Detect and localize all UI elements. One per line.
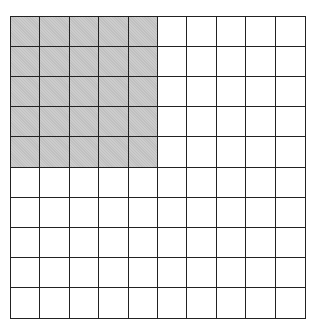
grid-cell — [217, 17, 246, 47]
grid-cell — [11, 228, 40, 258]
grid-cell — [276, 17, 305, 47]
grid-cell — [158, 107, 187, 137]
grid-cell — [217, 77, 246, 107]
grid-cell — [158, 17, 187, 47]
grid-cell — [246, 77, 275, 107]
grid-cell-shaded — [40, 47, 69, 77]
grid-cell-shaded — [70, 107, 99, 137]
grid-cell-shaded — [129, 17, 158, 47]
grid-cell-shaded — [40, 107, 69, 137]
grid-cell — [187, 17, 216, 47]
grid-cell — [276, 47, 305, 77]
grid-cell-shaded — [99, 47, 128, 77]
grid-cell — [99, 198, 128, 228]
grid-cell — [99, 288, 128, 318]
grid-cell — [246, 107, 275, 137]
grid-cell — [187, 258, 216, 288]
grid-cell — [40, 198, 69, 228]
grid-cell-shaded — [11, 17, 40, 47]
grid-cell-shaded — [70, 137, 99, 167]
grid-cell — [276, 137, 305, 167]
grid-cell — [187, 288, 216, 318]
grid-cell-shaded — [70, 17, 99, 47]
grid-cell — [276, 258, 305, 288]
grid-cell — [276, 77, 305, 107]
grid-cell-shaded — [99, 137, 128, 167]
grid-cell-shaded — [11, 47, 40, 77]
grid-cell — [158, 137, 187, 167]
grid-cell — [70, 228, 99, 258]
grid-cell — [217, 107, 246, 137]
grid-cell — [70, 168, 99, 198]
grid-cell-shaded — [11, 107, 40, 137]
grid-cell — [129, 228, 158, 258]
grid-cell — [158, 168, 187, 198]
grid-cell — [99, 168, 128, 198]
grid-cell — [99, 258, 128, 288]
grid-cell — [187, 228, 216, 258]
grid-cell — [246, 228, 275, 258]
grid-cell — [158, 258, 187, 288]
grid-cell — [158, 288, 187, 318]
grid-cell — [246, 288, 275, 318]
grid-cell — [217, 137, 246, 167]
grid-cell-shaded — [11, 77, 40, 107]
grid-cell-shaded — [40, 137, 69, 167]
grid-cell — [129, 168, 158, 198]
grid-cell — [246, 137, 275, 167]
grid-cell — [11, 198, 40, 228]
grid-cell-shaded — [129, 107, 158, 137]
hundred-grid — [10, 16, 306, 319]
grid-cell — [40, 228, 69, 258]
grid-cell — [217, 198, 246, 228]
grid-cell — [276, 228, 305, 258]
grid-cell — [11, 288, 40, 318]
grid-cell — [276, 107, 305, 137]
grid-cell — [187, 77, 216, 107]
grid-cell-shaded — [99, 17, 128, 47]
grid-cell — [70, 258, 99, 288]
grid-cell — [217, 258, 246, 288]
grid-cell — [11, 258, 40, 288]
grid-cell-shaded — [70, 77, 99, 107]
grid-cell — [217, 288, 246, 318]
grid-cell — [70, 288, 99, 318]
grid-cell — [158, 198, 187, 228]
grid-cell-shaded — [99, 77, 128, 107]
grid-cell — [129, 288, 158, 318]
grid-cell-shaded — [70, 47, 99, 77]
grid-cell — [40, 288, 69, 318]
grid-cell — [129, 258, 158, 288]
grid-cell — [246, 258, 275, 288]
grid-cell — [129, 198, 158, 228]
grid-cell — [99, 228, 128, 258]
grid-cell-shaded — [99, 107, 128, 137]
grid-cell — [158, 77, 187, 107]
grid-cell — [187, 137, 216, 167]
grid-cell — [40, 168, 69, 198]
grid-cell-shaded — [11, 137, 40, 167]
grid-cell-shaded — [40, 77, 69, 107]
grid-cell — [40, 258, 69, 288]
grid-cell — [276, 288, 305, 318]
grid-cell — [187, 47, 216, 77]
grid-cell-shaded — [129, 137, 158, 167]
grid-cell — [187, 198, 216, 228]
grid-cell — [246, 47, 275, 77]
grid-cell — [246, 168, 275, 198]
grid-cell-shaded — [40, 17, 69, 47]
grid-cell-shaded — [129, 47, 158, 77]
grid-cell — [187, 168, 216, 198]
grid-cell — [276, 198, 305, 228]
grid-cell — [217, 47, 246, 77]
grid-cell — [276, 168, 305, 198]
grid-cell — [217, 228, 246, 258]
grid-cell-shaded — [129, 77, 158, 107]
grid-cell — [246, 198, 275, 228]
grid-cell — [158, 228, 187, 258]
grid-cell — [246, 17, 275, 47]
grid-cell — [187, 107, 216, 137]
grid-cell — [11, 168, 40, 198]
grid-cell — [217, 168, 246, 198]
grid-cell — [70, 198, 99, 228]
